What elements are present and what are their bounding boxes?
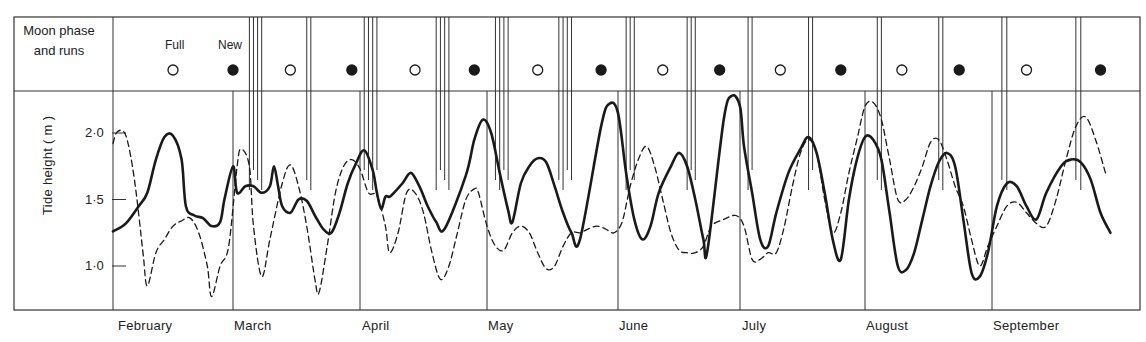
- month-label-september: September: [993, 318, 1059, 333]
- month-label-february: February: [118, 318, 172, 333]
- month-label-july: July: [742, 318, 766, 333]
- moon-phase-row-label: Moon phase and runs: [14, 21, 104, 61]
- day-tide-line: [113, 95, 1110, 279]
- tide-series: [113, 95, 1110, 296]
- y-tick-1-5: 1·5: [85, 192, 104, 207]
- y-axis-ticks: [112, 133, 126, 266]
- full-moon-legend-label: Full: [165, 38, 184, 52]
- month-label-august: August: [866, 318, 908, 333]
- moon-phase-markers: [168, 65, 1106, 75]
- y-tick-1-0: 1·0: [85, 258, 104, 273]
- y-axis-label: Tide height ( m ): [40, 116, 55, 215]
- month-label-may: May: [488, 318, 513, 333]
- month-label-april: April: [362, 318, 390, 333]
- fish-run-lines: [249, 17, 1080, 190]
- month-label-march: March: [234, 318, 272, 333]
- new-moon-legend-label: New: [218, 38, 242, 52]
- row-label-line2: and runs: [14, 41, 104, 61]
- row-label-line1: Moon phase: [14, 21, 104, 41]
- y-tick-2-0: 2·0: [85, 125, 104, 140]
- month-label-june: June: [619, 318, 648, 333]
